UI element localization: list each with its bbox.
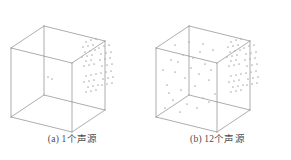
depth-edge-bottom-right [72,110,105,132]
source-point [111,82,113,84]
source-point [90,39,92,41]
source-point [229,51,231,53]
source-point [90,74,92,76]
back-face-edge-bottom [189,95,250,110]
source-point [166,84,168,86]
source-point [83,81,85,83]
source-point [83,65,85,67]
source-point [97,84,99,86]
source-point [232,86,234,88]
source-point [84,51,86,53]
source-point [177,61,179,63]
source-point [233,64,235,66]
source-point [202,97,204,99]
source-point [174,71,176,73]
source-point [99,59,101,61]
source-point [235,59,237,61]
source-point [172,99,174,101]
box-edges-a [11,26,105,132]
front-face-edge-bottom [11,117,72,132]
source-point [230,60,232,62]
source-point [246,65,248,67]
depth-edge-bottom-left [11,95,44,117]
source-point [255,70,257,72]
source-point [230,91,232,93]
source-point [248,45,250,47]
panel-a-caption: (a) 1个声源 [0,133,145,145]
source-point [190,67,192,69]
source-point [252,77,254,79]
depth-edge-bottom-left [156,95,189,117]
source-point [238,79,240,81]
source-point [194,85,196,87]
source-point [85,41,87,43]
source-point [101,65,103,67]
source-point [247,78,249,80]
source-point [106,64,108,66]
source-point [235,74,237,76]
source-point [102,78,104,80]
source-point [251,83,253,85]
source-point [47,76,49,78]
source-point [208,101,210,103]
source-point [235,39,237,41]
source-point [233,80,235,82]
source-point [87,45,89,47]
source-point [232,45,234,47]
source-point [196,107,198,109]
source-point [204,63,206,65]
source-point [239,49,241,51]
room-wireframe-a [0,0,145,136]
source-point [95,38,97,40]
source-points-b [162,38,259,113]
source-point [256,63,258,65]
source-point [87,86,89,88]
front-face-edge-top [156,48,217,63]
source-point [174,44,176,46]
source-point [198,73,200,75]
panel-b-caption: (b) 12个声源 [145,133,290,145]
source-point [110,51,112,53]
source-point [240,38,242,40]
source-point [230,41,232,43]
source-point [85,60,87,62]
source-point [237,85,239,87]
source-point [238,63,240,65]
source-point [105,52,107,54]
source-point [256,82,258,84]
source-point [95,73,97,75]
source-point [231,55,233,57]
source-point [230,75,232,77]
source-point [101,84,103,86]
source-point [251,64,253,66]
source-point [51,78,53,80]
source-point [257,76,259,78]
source-point [234,50,236,52]
source-point [253,44,255,46]
depth-edge-top-left [11,26,44,48]
source-point [95,89,97,91]
source-point [199,51,201,53]
source-point [250,52,252,54]
source-point [103,45,105,47]
source-point [90,90,92,92]
source-point [186,103,188,105]
source-point [244,59,246,61]
source-point [255,51,257,53]
source-point [88,64,90,66]
figure-panel-a: (a) 1个声源 [0,0,145,160]
source-point [243,47,245,49]
figure-panel-b: (b) 12个声源 [145,0,290,160]
source-point [110,70,112,72]
source-point [214,93,216,95]
source-point [112,76,114,78]
source-point [105,71,107,73]
source-point [228,65,230,67]
source-point [109,57,111,59]
depth-edge-top-left [156,26,189,48]
source-point [107,77,109,79]
source-point [246,84,248,86]
source-point [180,89,182,91]
source-point [170,59,172,61]
front-face-edge-top [11,48,72,63]
